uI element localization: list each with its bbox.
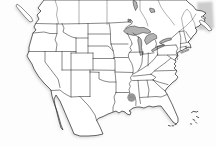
bahamas-islands <box>191 111 199 124</box>
vancouver-island <box>16 4 33 22</box>
mainland <box>27 0 206 136</box>
location-marker <box>127 93 135 101</box>
us-outline-map <box>0 0 216 146</box>
